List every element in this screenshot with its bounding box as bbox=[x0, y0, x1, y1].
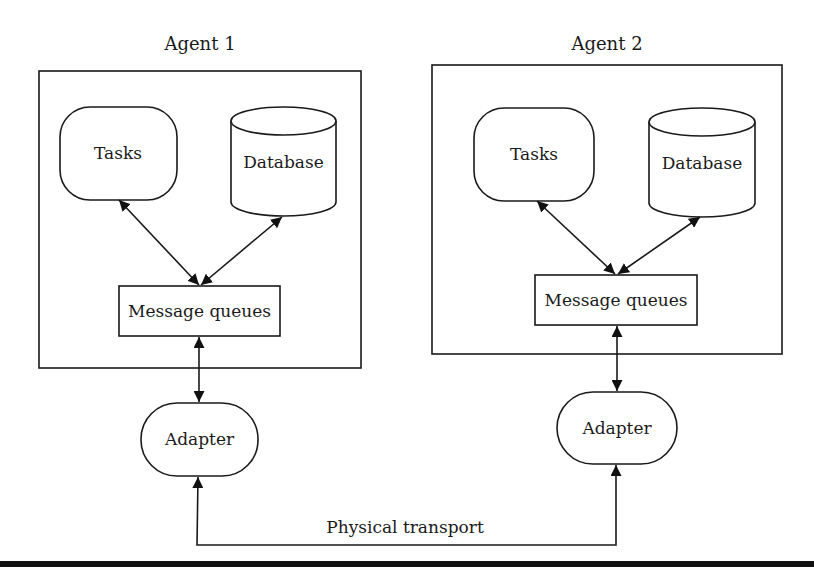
physical-transport-connector: Physical transport bbox=[197, 465, 616, 545]
bottom-rule bbox=[0, 561, 814, 567]
agent-1-message-queues-node: Message queues bbox=[119, 286, 280, 336]
message-queues-label: Message queues bbox=[128, 301, 271, 321]
database-cylinder-top bbox=[649, 108, 755, 136]
message-queues-label: Message queues bbox=[544, 290, 687, 310]
agent-2-group: Agent 2 Tasks Database Message queues Ad… bbox=[432, 33, 782, 464]
agent-1-group: Agent 1 Tasks Database Message queues Ad… bbox=[39, 33, 361, 476]
transport-label: Physical transport bbox=[326, 517, 484, 537]
agent-1-title: Agent 1 bbox=[163, 33, 235, 54]
adapter-label: Adapter bbox=[581, 418, 652, 438]
agent-1-database-node: Database bbox=[231, 107, 336, 216]
database-label: Database bbox=[243, 152, 324, 172]
agent-2-tasks-node: Tasks bbox=[474, 108, 594, 201]
agent-2-message-queues-node: Message queues bbox=[535, 275, 697, 325]
agent-2-database-node: Database bbox=[649, 108, 755, 217]
adapter-label: Adapter bbox=[164, 429, 235, 449]
database-label: Database bbox=[662, 153, 743, 173]
agent-1-adapter-node: Adapter bbox=[141, 403, 258, 476]
agent-2-adapter-node: Adapter bbox=[557, 392, 677, 464]
agent-1-tasks-node: Tasks bbox=[60, 107, 177, 200]
tasks-label: Tasks bbox=[510, 144, 558, 164]
agent-architecture-diagram: Agent 1 Tasks Database Message queues Ad… bbox=[0, 0, 814, 576]
database-cylinder-top bbox=[231, 107, 336, 135]
tasks-label: Tasks bbox=[94, 143, 142, 163]
agent-2-title: Agent 2 bbox=[570, 33, 642, 54]
